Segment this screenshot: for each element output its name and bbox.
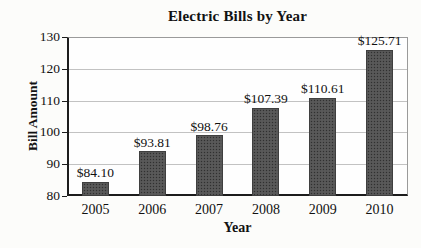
bar-value-label-2007: $98.76: [169, 120, 249, 134]
bar-2005: [83, 183, 108, 195]
bar-value-label-2009: $110.61: [283, 82, 363, 96]
bar-value-label-2005: $84.10: [55, 166, 135, 180]
x-tick-label-2006: 2006: [124, 202, 180, 217]
chart-title: Electric Bills by Year: [67, 8, 408, 25]
bar-value-label-2006: $93.81: [112, 136, 192, 150]
y-tick-label-100: 100: [26, 125, 60, 139]
y-tick-label-110: 110: [26, 94, 60, 108]
x-tick-label-2010: 2010: [352, 202, 408, 217]
y-tick-label-80: 80: [26, 189, 60, 203]
y-axis-title: Bill Amount: [25, 81, 41, 151]
y-tick-label-130: 130: [26, 30, 60, 44]
y-tick-mark-90: [62, 164, 67, 165]
y-tick-mark-130: [62, 37, 67, 38]
bar-2009: [310, 99, 335, 195]
y-tick-mark-80: [62, 196, 67, 197]
x-tick-label-2009: 2009: [295, 202, 351, 217]
bar-2008: [253, 109, 278, 195]
gridline-90: [69, 164, 407, 165]
y-tick-mark-100: [62, 132, 67, 133]
x-tick-label-2008: 2008: [238, 202, 294, 217]
y-tick-mark-110: [62, 101, 67, 102]
x-tick-label-2007: 2007: [181, 202, 237, 217]
x-axis-title: Year: [67, 220, 408, 236]
bar-2006: [140, 152, 165, 195]
bar-2007: [197, 136, 222, 195]
bar-2010: [367, 51, 392, 195]
gridline-120: [69, 69, 407, 70]
bar-value-label-2010: $125.71: [340, 34, 420, 48]
y-tick-mark-120: [62, 69, 67, 70]
bar-chart-figure: Electric Bills by Year Bill Amount Year …: [0, 0, 421, 248]
x-tick-label-2005: 2005: [67, 202, 123, 217]
y-tick-label-120: 120: [26, 62, 60, 76]
